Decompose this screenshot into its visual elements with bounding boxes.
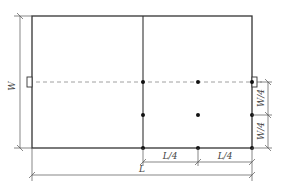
- point-icon: [250, 80, 254, 84]
- diagram-canvas: W L L/4 L/4 W/4 W/4: [0, 0, 286, 191]
- quarter-width-label-1: W/4: [256, 89, 266, 107]
- length-label: L: [138, 164, 145, 174]
- quarter-width-label-2: W/4: [256, 122, 266, 140]
- point-icon: [196, 113, 200, 117]
- left-side-marker: [27, 77, 32, 87]
- quarter-length-dimensions: [140, 148, 255, 166]
- point-icon: [141, 80, 145, 84]
- point-icon: [141, 113, 145, 117]
- quarter-length-label-2: L/4: [217, 151, 233, 161]
- quarter-length-label-1: L/4: [162, 151, 178, 161]
- width-label: W: [7, 81, 17, 91]
- point-icon: [196, 80, 200, 84]
- measurement-points: [141, 80, 254, 150]
